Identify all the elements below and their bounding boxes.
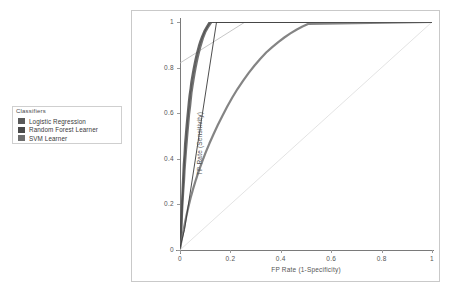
y-tick-label: 0.8 xyxy=(154,64,174,71)
x-tickmark xyxy=(281,250,282,253)
legend-color-swatch xyxy=(18,127,25,133)
plot-area xyxy=(180,22,432,250)
roc-curves-svg xyxy=(180,22,432,250)
y-tickmark xyxy=(177,159,180,160)
legend-item-label: Random Forest Learner xyxy=(29,126,98,133)
roc-chart-root: 00.20.40.60.8100.20.40.60.81 FP Rate (1-… xyxy=(0,0,449,293)
legend-item[interactable]: SVM Learner xyxy=(18,134,122,143)
x-tick-label: 0.2 xyxy=(220,255,240,262)
y-tickmark xyxy=(177,113,180,114)
legend-title: Classifiers xyxy=(14,108,48,114)
legend-item[interactable]: Random Forest Learner xyxy=(18,126,122,135)
x-tickmark xyxy=(382,250,383,253)
legend-items: Logistic RegressionRandom Forest Learner… xyxy=(18,117,122,143)
legend-item[interactable]: Logistic Regression xyxy=(18,117,122,126)
legend-color-swatch xyxy=(18,135,25,141)
tangent-line xyxy=(180,22,263,63)
y-tickmark xyxy=(177,204,180,205)
x-tick-label: 0 xyxy=(170,255,190,262)
y-tick-label: 0.6 xyxy=(154,109,174,116)
legend-color-swatch xyxy=(18,118,25,124)
x-tick-label: 1 xyxy=(422,255,442,262)
x-tickmark xyxy=(230,250,231,253)
y-tickmark xyxy=(177,22,180,23)
legend-item-label: Logistic Regression xyxy=(29,118,86,125)
legend-item-label: SVM Learner xyxy=(29,135,67,142)
x-tickmark xyxy=(331,250,332,253)
x-tick-label: 0.8 xyxy=(372,255,392,262)
y-tickmark xyxy=(177,68,180,69)
y-tick-label: 1 xyxy=(154,18,174,25)
x-tick-label: 0.4 xyxy=(271,255,291,262)
y-tick-label: 0 xyxy=(154,246,174,253)
x-axis-line xyxy=(176,250,434,251)
y-tick-label: 0.2 xyxy=(154,200,174,207)
x-tickmark xyxy=(180,250,181,253)
x-tickmark xyxy=(432,250,433,253)
x-axis-title: FP Rate (1-Specificity) xyxy=(180,266,432,273)
x-tick-label: 0.6 xyxy=(321,255,341,262)
chance-diagonal-line xyxy=(180,22,432,250)
y-tick-label: 0.4 xyxy=(154,155,174,162)
